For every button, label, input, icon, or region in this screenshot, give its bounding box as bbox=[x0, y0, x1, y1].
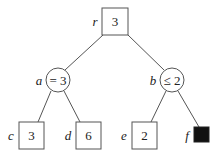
node-b-label: b bbox=[150, 73, 157, 88]
node-f: f bbox=[185, 127, 209, 143]
node-d-value: 6 bbox=[85, 128, 92, 143]
node-a: = 3 a bbox=[36, 68, 70, 92]
node-a-value: = 3 bbox=[49, 73, 66, 88]
node-c-label: c bbox=[8, 128, 14, 143]
node-d: 6 d bbox=[65, 122, 101, 149]
node-e: 2 e bbox=[121, 122, 157, 149]
node-b: ≤ 2 b bbox=[150, 68, 184, 92]
node-a-label: a bbox=[36, 73, 43, 88]
node-c-value: 3 bbox=[28, 128, 35, 143]
node-e-label: e bbox=[121, 128, 127, 143]
edge-b-e bbox=[151, 91, 166, 122]
game-tree-diagram: 3 r = 3 a ≤ 2 b 3 c 6 d 2 e f bbox=[0, 0, 218, 155]
edge-a-d bbox=[64, 91, 80, 122]
node-r-label: r bbox=[92, 14, 98, 29]
edge-r-a bbox=[65, 35, 103, 70]
node-r: 3 r bbox=[92, 8, 128, 35]
node-b-value: ≤ 2 bbox=[164, 73, 181, 88]
node-e-value: 2 bbox=[141, 128, 148, 143]
edge-r-b bbox=[128, 35, 164, 70]
node-f-label: f bbox=[185, 128, 191, 143]
edge-a-c bbox=[38, 91, 51, 122]
edge-b-f bbox=[178, 91, 199, 127]
node-r-value: 3 bbox=[112, 14, 119, 29]
node-c: 3 c bbox=[8, 122, 44, 149]
node-d-label: d bbox=[65, 128, 72, 143]
